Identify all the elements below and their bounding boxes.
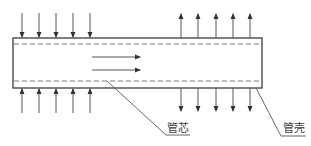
axial-flow-arrows: [92, 57, 140, 70]
core-label: 管芯: [167, 121, 189, 135]
shell-label: 管壳: [283, 121, 305, 135]
inflow-arrows-bottom: [22, 89, 90, 113]
inflow-arrows-top: [22, 13, 90, 37]
tube-flow-diagram: 管芯 管壳: [0, 0, 311, 146]
outflow-arrows-bottom: [181, 88, 250, 111]
outflow-arrows-top: [181, 14, 250, 38]
